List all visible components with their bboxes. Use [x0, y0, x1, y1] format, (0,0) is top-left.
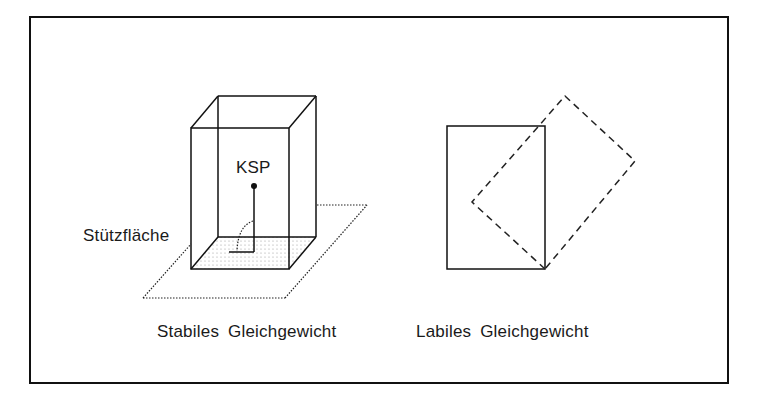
upright-block [447, 126, 545, 269]
labile-caption: Labiles Gleichgewicht [416, 322, 589, 342]
diagram-canvas [0, 0, 766, 403]
support-area-label: Stützfläche [83, 226, 169, 246]
ksp-label: KSP [236, 158, 271, 178]
tilted-block-outline [472, 96, 635, 269]
stable-caption: Stabiles Gleichgewicht [157, 322, 336, 342]
